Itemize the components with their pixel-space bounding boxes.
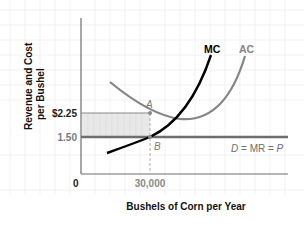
point-b-label: B	[154, 141, 161, 152]
chart: MC AC A B D = MR = P $2.25 1.50 0 30,000…	[0, 0, 304, 237]
y-axis-title-line2: per Bushel	[35, 68, 46, 120]
y-tick-225: $2.25	[52, 108, 77, 119]
demand-label: D = MR = P	[231, 143, 284, 154]
demand-label-d: D	[231, 143, 238, 154]
x-axis-title: Bushels of Corn per Year	[126, 201, 245, 212]
loss-area	[82, 113, 150, 137]
point-a-label: A	[145, 99, 153, 110]
ac-label: AC	[239, 43, 255, 55]
demand-label-mid: = MR =	[238, 143, 276, 154]
y-axis-title-line1: Revenue and Cost	[23, 42, 34, 130]
x-tick-0: 0	[73, 178, 79, 189]
y-tick-150: 1.50	[58, 132, 78, 143]
x-tick-30000: 30,000	[135, 178, 166, 189]
point-a-marker	[148, 111, 152, 115]
mc-label: MC	[204, 43, 221, 55]
point-b-marker	[148, 135, 152, 139]
demand-label-p: P	[277, 143, 284, 154]
